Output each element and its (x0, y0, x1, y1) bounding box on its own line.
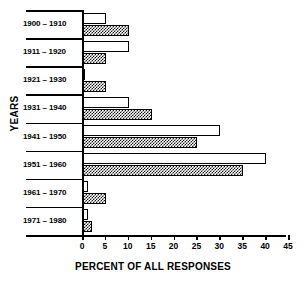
x-tick-mark (151, 235, 153, 240)
x-tick-mark (265, 235, 267, 240)
bar-checkered (83, 165, 243, 176)
x-tick-label: 35 (230, 241, 254, 251)
x-tick-mark (219, 235, 221, 240)
category-separator (26, 123, 84, 125)
bar-checkered (83, 25, 129, 36)
bar-open (83, 69, 85, 80)
bar-checkered (83, 221, 92, 232)
category-label: 1941 – 1950 (23, 132, 79, 141)
category-group: 1971 – 1980 (82, 207, 288, 235)
category-separator (26, 179, 84, 181)
bar-open (83, 209, 88, 220)
bar-open (83, 125, 220, 136)
plot-area: 1900 – 19101911 – 19201921 – 19301931 – … (82, 10, 288, 235)
bar-open (83, 97, 129, 108)
x-tick-label: 20 (162, 241, 186, 251)
category-separator (26, 66, 84, 68)
x-tick-mark (242, 235, 244, 240)
x-axis-line (28, 235, 286, 237)
bar-chart: YEARS 1900 – 19101911 – 19201921 – 19301… (0, 0, 306, 282)
x-tick-label: 40 (253, 241, 277, 251)
x-tick-label: 5 (93, 241, 117, 251)
bar-checkered (83, 81, 106, 92)
y-axis-title: YEARS (9, 74, 20, 154)
x-tick-label: 45 (276, 241, 300, 251)
category-group: 1941 – 1950 (82, 123, 288, 151)
x-tick-mark (82, 235, 84, 240)
category-label: 1931 – 1940 (23, 103, 79, 112)
x-tick-mark (128, 235, 130, 240)
x-tick-label: 30 (207, 241, 231, 251)
category-group: 1931 – 1940 (82, 94, 288, 122)
category-group: 1911 – 1920 (82, 38, 288, 66)
category-label: 1971 – 1980 (23, 216, 79, 225)
x-tick-label: 25 (184, 241, 208, 251)
x-axis-title: PERCENT OF ALL RESPONSES (0, 261, 306, 272)
x-tick-label: 10 (116, 241, 140, 251)
category-label: 1921 – 1930 (23, 75, 79, 84)
bar-open (83, 41, 129, 52)
category-group: 1951 – 1960 (82, 151, 288, 179)
x-tick-label: 0 (70, 241, 94, 251)
bar-open (83, 153, 266, 164)
category-label: 1900 – 1910 (23, 19, 79, 28)
bar-open (83, 13, 106, 24)
bar-checkered (83, 193, 106, 204)
category-separator (26, 151, 84, 153)
bar-checkered (83, 53, 106, 64)
x-tick-mark (105, 235, 107, 240)
bar-checkered (83, 109, 152, 120)
category-group: 1961 – 1970 (82, 179, 288, 207)
category-separator (26, 207, 84, 209)
category-separator (26, 38, 84, 40)
x-tick-label: 15 (139, 241, 163, 251)
bar-open (83, 181, 88, 192)
category-separator (26, 10, 84, 12)
x-tick-mark (174, 235, 176, 240)
x-tick-mark (196, 235, 198, 240)
category-label: 1911 – 1920 (23, 47, 79, 56)
category-label: 1961 – 1970 (23, 188, 79, 197)
category-group: 1900 – 1910 (82, 10, 288, 38)
bar-checkered (83, 137, 197, 148)
category-label: 1951 – 1960 (23, 160, 79, 169)
x-tick-mark (288, 235, 290, 240)
category-separator (26, 94, 84, 96)
category-group: 1921 – 1930 (82, 66, 288, 94)
